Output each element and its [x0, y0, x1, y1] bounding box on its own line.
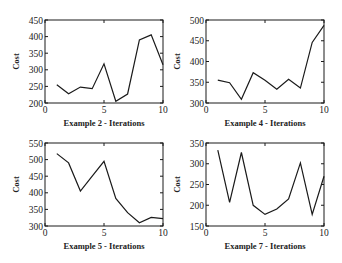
plot-frame	[206, 20, 324, 103]
x-axis-label: Example 7 - Iterations	[225, 241, 307, 251]
chart-svg: 3003504004505000510Example 4 - Iteration…	[166, 12, 334, 135]
y-axis-label: Cost	[172, 53, 182, 70]
y-tick-label: 450	[190, 36, 205, 46]
chart-svg: 1502002503003500510Example 7 - Iteration…	[166, 135, 334, 258]
x-axis-label: Example 5 - Iterations	[64, 241, 146, 251]
x-tick-label: 0	[204, 228, 209, 238]
chart-example-7: 1502002503003500510Example 7 - Iteration…	[166, 135, 334, 258]
plot-frame	[45, 143, 163, 226]
y-tick-label: 200	[29, 99, 44, 109]
x-tick-label: 10	[319, 228, 329, 238]
y-tick-label: 350	[29, 49, 44, 59]
plot-frame	[206, 143, 324, 226]
y-tick-label: 200	[190, 201, 205, 211]
chart-example-4: 3003504004505000510Example 4 - Iteration…	[166, 12, 334, 135]
x-tick-label: 0	[43, 105, 48, 115]
y-tick-label: 450	[29, 16, 44, 26]
x-tick-label: 5	[102, 105, 107, 115]
y-tick-label: 350	[190, 139, 205, 149]
y-tick-label: 250	[190, 180, 205, 190]
y-tick-label: 400	[29, 32, 44, 42]
chart-svg: 2002503003504004500510Example 2 - Iterat…	[5, 12, 173, 135]
x-axis-label: Example 2 - Iterations	[64, 118, 146, 128]
x-tick-label: 10	[319, 105, 329, 115]
y-tick-label: 550	[29, 139, 44, 149]
y-tick-label: 400	[190, 57, 205, 67]
x-tick-label: 5	[102, 228, 107, 238]
y-tick-label: 350	[190, 78, 205, 88]
x-axis-label: Example 4 - Iterations	[225, 118, 307, 128]
y-axis-label: Cost	[172, 176, 182, 193]
cost-line	[57, 154, 163, 223]
cost-line	[218, 150, 324, 214]
chart-example-5: 3003504004505005500510Example 5 - Iterat…	[5, 135, 173, 258]
y-tick-label: 450	[29, 172, 44, 182]
y-axis-label: Cost	[11, 53, 21, 70]
cost-line	[57, 35, 163, 101]
y-tick-label: 300	[29, 65, 44, 75]
y-tick-label: 300	[190, 99, 205, 109]
x-tick-label: 0	[43, 228, 48, 238]
x-tick-label: 5	[263, 105, 268, 115]
plot-frame	[45, 20, 163, 103]
y-tick-label: 400	[29, 188, 44, 198]
y-tick-label: 250	[29, 82, 44, 92]
y-axis-label: Cost	[11, 176, 21, 193]
y-tick-label: 500	[29, 155, 44, 165]
y-tick-label: 350	[29, 205, 44, 215]
cost-line	[218, 25, 324, 99]
y-tick-label: 500	[190, 16, 205, 26]
y-tick-label: 300	[190, 159, 205, 169]
y-tick-label: 300	[29, 222, 44, 232]
y-tick-label: 150	[190, 222, 205, 232]
chart-example-2: 2002503003504004500510Example 2 - Iterat…	[5, 12, 173, 135]
x-tick-label: 0	[204, 105, 209, 115]
chart-svg: 3003504004505005500510Example 5 - Iterat…	[5, 135, 173, 258]
x-tick-label: 5	[263, 228, 268, 238]
